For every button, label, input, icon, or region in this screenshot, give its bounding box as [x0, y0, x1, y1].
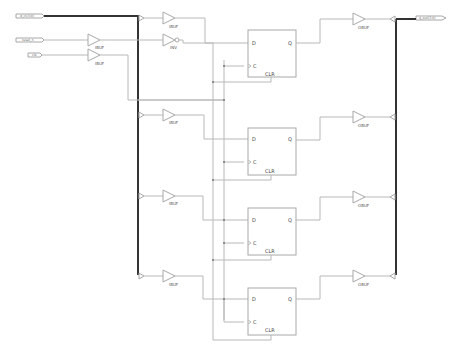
- svg-text:OBUF: OBUF: [358, 25, 370, 30]
- svg-text:IBUF: IBUF: [169, 201, 179, 206]
- ibuf-data-1[interactable]: IBUF: [163, 109, 179, 125]
- bus-rippers-out: [390, 16, 395, 279]
- svg-text:IBUF: IBUF: [95, 61, 105, 66]
- obuf-0[interactable]: OBUF: [353, 13, 370, 30]
- ibuf-data-0[interactable]: IBUF: [163, 12, 179, 29]
- ibuf-clock[interactable]: IBUF: [88, 49, 105, 66]
- flipflop-1[interactable]: D Q C CLR: [248, 128, 296, 175]
- flipflop-0[interactable]: D Q C CLR: [248, 30, 296, 77]
- obuf-2[interactable]: OBUF: [353, 191, 370, 208]
- svg-text:d_in(3:0): d_in(3:0): [20, 14, 34, 18]
- ibuf-reset[interactable]: IBUF: [88, 34, 105, 50]
- svg-text:D: D: [252, 40, 256, 46]
- bus-rippers-in: [139, 15, 144, 279]
- svg-text:OBUF: OBUF: [358, 282, 370, 287]
- svg-text:CLR: CLR: [265, 168, 275, 174]
- obuf-3[interactable]: OBUF: [353, 270, 370, 287]
- output-port-bus[interactable]: q_out(3:0): [416, 16, 446, 20]
- input-port-clock[interactable]: clk: [28, 53, 42, 57]
- svg-text:Q: Q: [288, 136, 292, 142]
- obuf-1[interactable]: OBUF: [353, 111, 370, 128]
- input-port-reset[interactable]: reset_n: [16, 38, 44, 42]
- svg-text:OBUF: OBUF: [358, 203, 370, 208]
- svg-text:q_out(3:0): q_out(3:0): [419, 16, 435, 20]
- svg-text:Q: Q: [288, 296, 292, 302]
- ibuf-data-2[interactable]: IBUF: [163, 190, 179, 206]
- flipflop-2[interactable]: D Q C CLR: [248, 208, 296, 255]
- schematic-canvas: d_in(3:0) reset_n clk q_out(3:0) IBUF: [0, 0, 460, 355]
- inv-reset[interactable]: INV: [163, 34, 179, 50]
- svg-text:C: C: [253, 319, 257, 325]
- svg-text:OBUF: OBUF: [358, 123, 370, 128]
- flipflop-3[interactable]: D Q C CLR: [248, 288, 296, 335]
- svg-text:D: D: [252, 296, 256, 302]
- svg-text:D: D: [252, 217, 256, 223]
- svg-text:IBUF: IBUF: [95, 45, 105, 50]
- svg-text:D: D: [252, 136, 256, 142]
- svg-text:CLR: CLR: [265, 327, 275, 333]
- svg-text:IBUF: IBUF: [169, 120, 179, 125]
- input-port-bus[interactable]: d_in(3:0): [16, 14, 44, 18]
- svg-text:IBUF: IBUF: [169, 24, 179, 29]
- svg-text:INV: INV: [170, 45, 177, 50]
- svg-text:IBUF: IBUF: [169, 282, 179, 287]
- svg-text:Q: Q: [288, 217, 292, 223]
- svg-text:C: C: [253, 63, 257, 69]
- svg-text:clk: clk: [32, 53, 37, 57]
- svg-text:C: C: [253, 240, 257, 246]
- svg-text:reset_n: reset_n: [22, 38, 34, 42]
- svg-text:Q: Q: [288, 40, 292, 46]
- svg-text:CLR: CLR: [265, 71, 275, 77]
- ibuf-data-3[interactable]: IBUF: [163, 270, 179, 287]
- svg-text:CLR: CLR: [265, 248, 275, 254]
- svg-text:C: C: [253, 159, 257, 165]
